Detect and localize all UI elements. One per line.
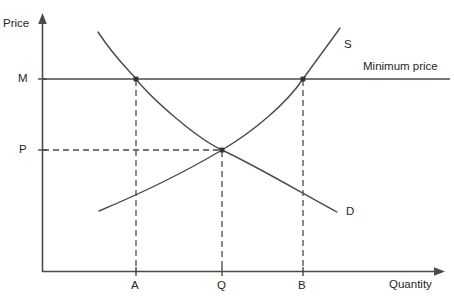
x-tick-label-q: Q [217,280,226,292]
equilibrium-point-marker [220,148,225,153]
x-axis-title: Quantity [389,279,432,291]
chart-canvas [0,0,454,300]
supply-curve-label: S [344,39,352,51]
y-axis [38,13,47,272]
point-b-marker [301,77,306,82]
point-a-marker [134,77,139,82]
x-tick-label-b: B [298,280,306,292]
demand-curve [98,32,337,212]
y-axis-title: Price [3,18,29,30]
y-tick-label-p: P [19,144,27,156]
demand-curve-label: D [346,206,354,218]
supply-curve [99,28,340,211]
x-tick-label-a: A [131,280,139,292]
supply-demand-diagram: Price Quantity M P A Q B S D Minimum pri… [0,0,454,300]
y-tick-label-m: M [18,73,28,85]
y-axis-arrowhead [38,13,47,24]
x-axis-arrowhead [434,267,445,276]
minimum-price-label: Minimum price [363,61,438,73]
x-axis [42,267,445,276]
